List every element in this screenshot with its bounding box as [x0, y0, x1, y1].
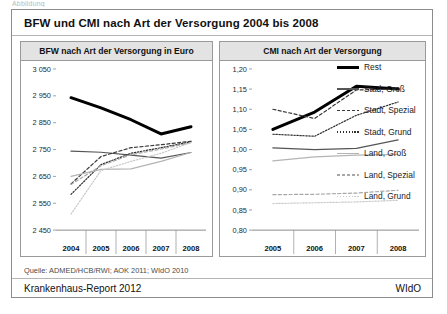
figure-container: BFW und CMI nach Art der Versorgung 2004…	[11, 9, 433, 298]
footer-report-title: Krankenhaus-Report 2012	[24, 280, 141, 298]
y-axis-tick-label: 1,20	[233, 65, 247, 74]
y-axis-tick-label: 0,85	[233, 206, 247, 215]
legend-item-label: Stad, Groß	[364, 79, 405, 101]
y-axis-tick-label: 0,80	[233, 226, 247, 235]
series-line	[71, 98, 191, 134]
x-axis-tick-label: 2005	[93, 244, 110, 253]
chart-panel-bfw: BFW nach Art der Versorgung in Euro 2 45…	[20, 41, 213, 257]
legend-item-label: Land, Grund	[364, 186, 411, 208]
x-axis-tick-label: 2005	[264, 244, 281, 253]
legend-item[interactable]: Stadt, Grund	[337, 122, 437, 144]
x-axis-tick-label: 2007	[153, 244, 170, 253]
legend-item-label: Rest	[364, 57, 381, 79]
y-axis-tick-label: 2 650	[32, 172, 51, 181]
y-axis-tick-label: 0,95	[233, 165, 247, 174]
series-line	[71, 141, 191, 184]
legend-swatch-icon	[337, 110, 359, 111]
y-axis-tick-label: 3 050	[32, 65, 51, 74]
x-axis-tick-label: 2008	[183, 244, 200, 253]
chart-title-bfw: BFW nach Art der Versorgung in Euro	[21, 42, 212, 61]
footer-publisher: WIdO	[395, 280, 421, 298]
legend-item[interactable]: Land, Spezial	[337, 165, 437, 187]
x-axis-tick-label: 2008	[390, 244, 407, 253]
legend-item[interactable]: Rest	[337, 57, 437, 79]
legend-item-label: Stadt, Grund	[364, 122, 412, 144]
legend-item-label: Stadt, Spezial	[364, 100, 416, 122]
y-axis-tick-label: 2 750	[32, 145, 51, 154]
y-axis-tick-label: 2 550	[32, 199, 51, 208]
footer-divider	[12, 278, 432, 279]
y-axis-tick-label: 2 950	[32, 91, 51, 100]
legend-swatch-icon	[337, 66, 359, 69]
y-axis-tick-label: 1,00	[233, 145, 247, 154]
cropped-caption: Abbildung	[12, 0, 92, 7]
x-axis-tick-label: 2004	[63, 244, 81, 253]
figure-title: BFW und CMI nach Art der Versorgung 2004…	[12, 10, 432, 36]
figure-page: Abbildung BFW und CMI nach Art der Verso…	[0, 0, 447, 314]
source-note: Quelle: ADMED/HCB/RWI; AOK 2011; WIdO 20…	[24, 266, 188, 275]
legend-swatch-icon	[337, 153, 359, 154]
legend-item[interactable]: Stadt, Spezial	[337, 100, 437, 122]
legend-swatch-icon	[337, 196, 359, 197]
y-axis-tick-label: 2 850	[32, 118, 51, 127]
legend-swatch-icon	[337, 131, 359, 132]
y-axis-tick-label: 1,05	[233, 125, 247, 134]
legend-swatch-icon	[337, 174, 359, 175]
legend-item-label: Land, Spezial	[364, 165, 415, 187]
series-line	[71, 143, 191, 185]
x-axis-tick-label: 2007	[348, 244, 365, 253]
y-axis-tick-label: 0,90	[233, 185, 247, 194]
legend-swatch-icon	[337, 88, 359, 89]
plot-area-bfw: 2 4502 5502 6502 7502 8502 9503 05020042…	[21, 61, 212, 256]
legend-item[interactable]: Stad, Groß	[337, 79, 437, 101]
y-axis-tick-label: 1,15	[233, 85, 247, 94]
y-axis-tick-label: 2 450	[32, 226, 51, 235]
legend-item[interactable]: Land, Grund	[337, 186, 437, 208]
legend-item[interactable]: Land, Groß	[337, 143, 437, 165]
x-axis-tick-label: 2006	[123, 244, 140, 253]
y-axis-tick-label: 1,10	[233, 105, 247, 114]
legend-item-label: Land, Groß	[364, 143, 406, 165]
chart-legend: RestStad, GroßStadt, SpezialStadt, Grund…	[337, 57, 437, 243]
x-axis-tick-label: 2006	[306, 244, 323, 253]
